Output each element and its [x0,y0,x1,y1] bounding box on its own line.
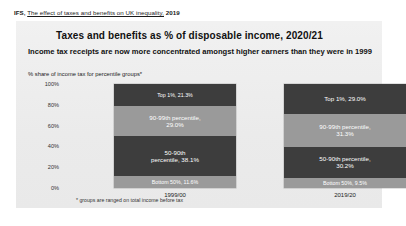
slide-panel: Taxes and benefits as % of disposable in… [16,21,382,208]
citation-link[interactable]: The effect of taxes and benefits on UK i… [27,9,164,16]
citation-year: 2019 [166,9,180,16]
y-axis: 0%20%40%60%80%100% [28,80,62,188]
y-axis-tick: 20% [48,164,59,170]
bar-segment[interactable]: 50-90th percentile, 38.1% [114,136,236,176]
bar-stack: Top 1%, 21.3%90-99th percentile, 29.0%50… [114,84,236,188]
bar-segment[interactable]: Top 1%, 21.3% [114,84,236,106]
x-axis-category-label: 2019/20 [284,192,406,198]
bar-segment-label: Bottom 50%, 11.6% [150,179,200,186]
bar-segment-label: 90-99th percentile, 31.3% [317,123,372,138]
source-citation: IFS, The effect of taxes and benefits on… [14,9,180,17]
bar-segment-label: Bottom 50%, 9.5% [321,180,369,187]
bar-segment-label: 50-90th percentile, 38.1% [149,149,201,164]
bar-segment-label: 50-90th percentile, 30.2% [317,155,372,170]
chart-footnote: * groups are ranged on total income befo… [76,197,183,203]
y-axis-tick: 80% [48,102,59,108]
y-axis-tick: 100% [45,81,59,87]
bar-segment-label: Top 1%, 21.3% [155,92,195,99]
y-axis-tick: 40% [48,143,59,149]
bar-column: Top 1%, 29.0%90-99th percentile, 31.3%50… [284,84,406,188]
bar-column: Top 1%, 21.3%90-99th percentile, 29.0%50… [114,84,236,188]
slide-title: Taxes and benefits as % of disposable in… [56,30,323,41]
citation-source: IFS, [14,9,26,16]
bar-stack: Top 1%, 29.0%90-99th percentile, 31.3%50… [284,84,406,188]
bar-segment-label: Top 1%, 29.0% [322,95,368,103]
bar-segment[interactable]: 50-90th percentile, 30.2% [284,147,406,178]
bar-segment[interactable]: 90-99th percentile, 29.0% [114,106,236,136]
bar-segment[interactable]: 90-99th percentile, 31.3% [284,114,406,147]
bar-segment[interactable]: Bottom 50%, 11.6% [114,176,236,188]
bar-columns: Top 1%, 21.3%90-99th percentile, 29.0%50… [62,84,372,188]
y-axis-tick: 0% [51,185,59,191]
stacked-bar-chart: 0%20%40%60%80%100% Top 1%, 21.3%90-99th … [28,80,372,190]
chart-axis-caption: % share of income tax for percentile gro… [28,71,142,77]
bar-segment[interactable]: Bottom 50%, 9.5% [284,178,406,188]
bar-segment-label: 90-99th percentile, 29.0% [147,114,202,129]
slide-subtitle: Income tax receipts are now more concent… [28,47,372,58]
bar-segment[interactable]: Top 1%, 29.0% [284,84,406,114]
y-axis-tick: 60% [48,123,59,129]
